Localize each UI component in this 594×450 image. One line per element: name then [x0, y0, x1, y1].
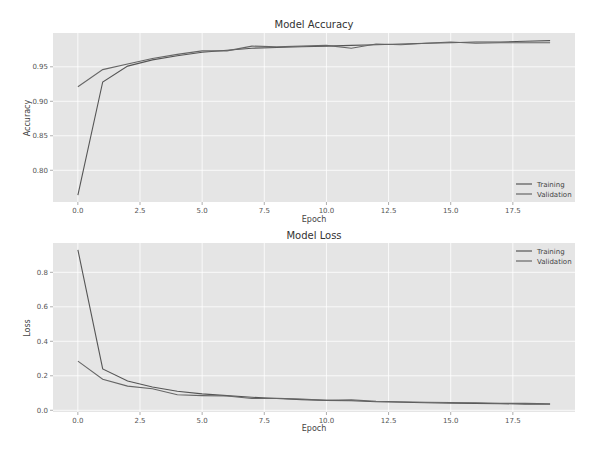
- accuracy-y-ticks: 0.800.850.900.95: [32, 63, 53, 174]
- x-tick-label: 5.0: [197, 417, 208, 425]
- x-tick-label: 7.5: [259, 417, 270, 425]
- legend-validation-label: Validation: [537, 191, 572, 199]
- x-tick-label: 5.0: [197, 207, 208, 215]
- legend-validation-label: Validation: [537, 258, 572, 266]
- y-tick-label: 0.2: [37, 372, 48, 380]
- legend-training-label: Training: [536, 181, 565, 189]
- chart-canvas: 0.02.55.07.510.012.515.017.5 0.800.850.9…: [0, 0, 594, 450]
- accuracy-plot: 0.02.55.07.510.012.515.017.5 0.800.850.9…: [23, 19, 575, 224]
- x-tick-label: 15.0: [443, 417, 459, 425]
- y-tick-label: 0.80: [32, 167, 48, 175]
- x-tick-label: 12.5: [381, 417, 397, 425]
- legend-training-label: Training: [536, 248, 565, 256]
- accuracy-y-label: Accuracy: [23, 99, 32, 136]
- y-tick-label: 0.85: [32, 132, 48, 140]
- x-tick-label: 7.5: [259, 207, 270, 215]
- x-tick-label: 0.0: [72, 207, 83, 215]
- y-tick-label: 0.90: [32, 98, 48, 106]
- x-tick-label: 0.0: [72, 417, 83, 425]
- y-tick-label: 0.6: [37, 303, 49, 311]
- accuracy-x-label: Epoch: [302, 215, 327, 224]
- accuracy-x-ticks: 0.02.55.07.510.012.515.017.5: [72, 202, 520, 215]
- loss-y-ticks: 0.00.20.40.60.8: [37, 269, 53, 415]
- accuracy-plot-area: [53, 33, 575, 202]
- x-tick-label: 15.0: [443, 207, 459, 215]
- y-tick-label: 0.8: [37, 269, 48, 277]
- loss-x-label: Epoch: [302, 424, 327, 433]
- y-tick-label: 0.0: [37, 407, 48, 415]
- x-tick-label: 2.5: [134, 417, 145, 425]
- loss-y-label: Loss: [23, 319, 32, 337]
- loss-title: Model Loss: [286, 230, 341, 241]
- y-tick-label: 0.4: [37, 338, 49, 346]
- x-tick-label: 12.5: [381, 207, 397, 215]
- loss-plot: 0.02.55.07.510.012.515.017.5 0.00.20.40.…: [23, 230, 575, 433]
- loss-x-ticks: 0.02.55.07.510.012.515.017.5: [72, 412, 520, 425]
- x-tick-label: 2.5: [134, 207, 145, 215]
- x-tick-label: 10.0: [319, 207, 335, 215]
- x-tick-label: 17.5: [505, 207, 521, 215]
- accuracy-title: Model Accuracy: [275, 19, 354, 30]
- y-tick-label: 0.95: [32, 63, 48, 71]
- x-tick-label: 17.5: [505, 417, 521, 425]
